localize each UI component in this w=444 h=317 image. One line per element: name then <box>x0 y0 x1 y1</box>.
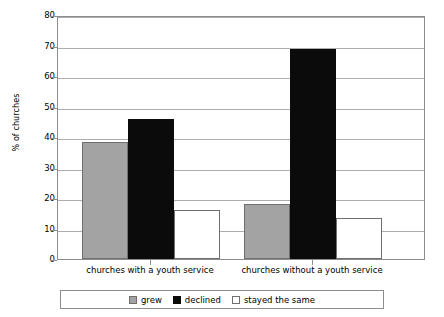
bar-declined-group-1 <box>128 119 174 259</box>
legend-item-same: stayed the same <box>232 295 315 305</box>
legend: grewdeclinedstayed the same <box>60 290 384 309</box>
legend-swatch-icon <box>129 296 137 304</box>
bar-grew-group-2 <box>244 204 290 259</box>
legend-swatch-icon <box>173 296 181 304</box>
y-axis-tick-label: 80 <box>15 11 55 20</box>
gridline <box>58 17 424 18</box>
y-axis-tick-label: 0 <box>15 255 55 264</box>
y-axis-title: % of churches <box>12 73 21 173</box>
x-axis-category-label: churches without a youth service <box>202 265 422 275</box>
y-axis-tick-label: 40 <box>15 133 55 142</box>
y-axis-tick-label: 30 <box>15 164 55 173</box>
gridline <box>58 109 424 110</box>
y-axis-tick-label: 60 <box>15 72 55 81</box>
bar-stayed-the-same-group-1 <box>174 210 220 259</box>
gridline <box>58 48 424 49</box>
bar-declined-group-2 <box>290 49 336 259</box>
gridline <box>58 78 424 79</box>
legend-item-declined: declined <box>173 295 221 305</box>
legend-swatch-icon <box>232 296 240 304</box>
gridline <box>58 139 424 140</box>
y-axis-tick-label: 20 <box>15 194 55 203</box>
legend-label: stayed the same <box>244 295 315 305</box>
y-axis-tick-label: 10 <box>15 225 55 234</box>
legend-label: declined <box>185 295 221 305</box>
legend-item-grew: grew <box>129 295 162 305</box>
bar-grew-group-1 <box>82 142 128 259</box>
legend-label: grew <box>141 295 162 305</box>
bar-stayed-the-same-group-2 <box>336 218 382 259</box>
y-axis-tick-label: 70 <box>15 42 55 51</box>
y-axis-tick-mark <box>51 260 57 261</box>
plot-area <box>57 16 425 260</box>
bar-chart: % of churches 01020304050607080 churches… <box>0 0 444 317</box>
y-axis-tick-label: 50 <box>15 103 55 112</box>
